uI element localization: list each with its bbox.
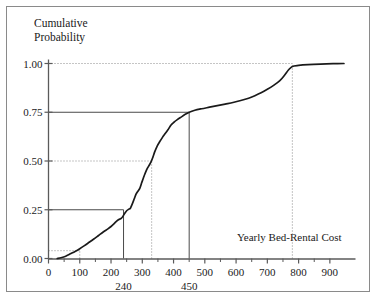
y-tick-label-0.25: 0.25 <box>5 205 43 216</box>
plot-canvas <box>0 0 378 306</box>
x-annotation-240: 240 <box>106 281 142 292</box>
y-tick-label-0.50: 0.50 <box>5 156 43 167</box>
y-tick-label-0.75: 0.75 <box>5 107 43 118</box>
x-tick-label-900: 900 <box>312 267 348 278</box>
y-tick-label-0.00: 0.00 <box>5 254 43 265</box>
x-annotation-450: 450 <box>171 281 207 292</box>
figure: Cumulative Probability Yearly Bed-Rental… <box>0 0 378 306</box>
y-tick-label-1.00: 1.00 <box>5 59 43 70</box>
